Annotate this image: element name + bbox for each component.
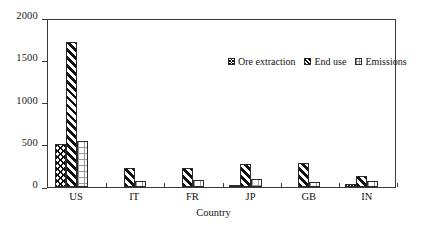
plot-area: Ore extraction End use Emissions bbox=[47, 19, 396, 188]
x-axis-category-label: GB bbox=[284, 191, 334, 202]
bar-group-jp bbox=[229, 20, 262, 187]
x-axis-tick bbox=[164, 183, 165, 187]
bar-end-use-jp bbox=[240, 164, 251, 187]
bar-group-in bbox=[345, 20, 378, 187]
y-axis-tick-label: 1500 bbox=[16, 53, 38, 64]
bar-group-it bbox=[113, 20, 146, 187]
bar-emissions-fr bbox=[193, 180, 204, 187]
bar-group-us bbox=[55, 20, 88, 187]
y-axis-tick-label: 2000 bbox=[16, 11, 38, 22]
y-axis-tick-label: 0 bbox=[33, 180, 38, 191]
bar-emissions-in bbox=[367, 181, 378, 187]
bar-emissions-it bbox=[135, 181, 146, 187]
x-axis-category-label: IN bbox=[342, 191, 392, 202]
bar-emissions-gb bbox=[309, 182, 320, 187]
bar-emissions-jp bbox=[251, 179, 262, 187]
x-axis-category-label: IT bbox=[109, 191, 159, 202]
x-axis-tick bbox=[106, 183, 107, 187]
bar-end-use-us bbox=[66, 42, 77, 187]
x-axis-category-label: FR bbox=[167, 191, 217, 202]
y-axis-tick-label: 500 bbox=[22, 138, 38, 149]
x-axis-tick bbox=[223, 183, 224, 187]
x-axis-title: Country bbox=[0, 207, 427, 218]
bar-group-fr bbox=[171, 20, 204, 187]
bar-end-use-gb bbox=[298, 163, 309, 188]
bar-emissions-us bbox=[77, 141, 88, 187]
y-axis-tick-label: 1000 bbox=[16, 96, 38, 107]
bar-end-use-in bbox=[356, 176, 367, 187]
bar-ore-extraction-us bbox=[55, 144, 66, 187]
x-axis-tick bbox=[339, 183, 340, 187]
bar-ore-extraction-in bbox=[345, 184, 356, 187]
x-axis-tick bbox=[281, 183, 282, 187]
x-axis-category-label: US bbox=[51, 191, 101, 202]
bar-chart-figure: 0500100015002000 Ore extraction End use … bbox=[0, 0, 427, 229]
bar-group-gb bbox=[287, 20, 320, 187]
bar-end-use-fr bbox=[182, 168, 193, 187]
bar-ore-extraction-jp bbox=[229, 185, 240, 187]
x-axis-category-label: JP bbox=[226, 191, 276, 202]
bar-end-use-it bbox=[124, 168, 135, 187]
x-axis-tick bbox=[397, 183, 398, 187]
